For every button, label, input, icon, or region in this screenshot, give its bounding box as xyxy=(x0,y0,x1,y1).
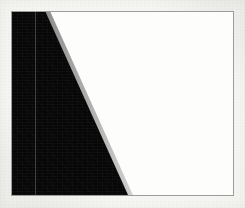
figure-root xyxy=(0,0,245,208)
plot-frame xyxy=(11,11,234,196)
black-wedge-shape xyxy=(12,12,233,195)
